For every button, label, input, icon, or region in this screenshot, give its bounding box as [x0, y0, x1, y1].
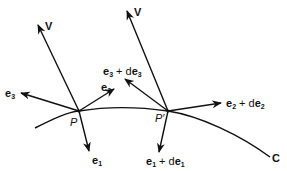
- frame-diagram: C V e3 e2 e1 P V e3 + de3 e2 + de2 e1 + …: [0, 0, 287, 171]
- e3-plus-de3-label: e3 + de3: [103, 65, 142, 78]
- e2-plus-de2-label: e2 + de2: [226, 97, 265, 110]
- point-p: [77, 109, 80, 112]
- v-vector-at-p: [38, 25, 79, 111]
- point-p-prime-label: P′: [155, 112, 165, 124]
- e2-plus-de2-vector: [168, 103, 221, 111]
- curve-label: C: [272, 152, 280, 164]
- v-label-at-p: V: [45, 20, 53, 32]
- e1-vector-at-p: [79, 111, 89, 151]
- e1-plus-de1-label: e1 + de1: [146, 155, 185, 168]
- e3-label-at-p: e3: [5, 87, 15, 100]
- point-p-prime: [166, 109, 169, 112]
- e1-label-at-p: e1: [92, 154, 102, 167]
- point-p-label: P: [70, 116, 78, 128]
- e3-vector-at-p: [21, 93, 79, 111]
- v-label-at-p-prime: V: [134, 6, 142, 18]
- e2-label-at-p: e2: [101, 81, 111, 94]
